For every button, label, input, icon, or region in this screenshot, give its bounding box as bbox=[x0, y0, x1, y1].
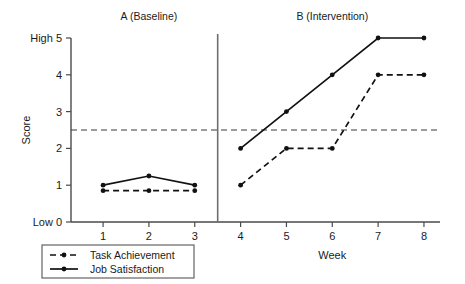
x-axis-title: Week bbox=[318, 249, 346, 261]
data-point-marker bbox=[238, 146, 243, 151]
data-point-marker bbox=[192, 183, 197, 188]
legend-marker bbox=[62, 267, 67, 272]
data-point-marker bbox=[147, 188, 152, 193]
data-point-marker bbox=[101, 188, 106, 193]
phase-label-group: A (Baseline)B (Intervention) bbox=[121, 10, 369, 22]
data-point-marker bbox=[330, 146, 335, 151]
chart-container: A (Baseline)B (Intervention) Low 01234Hi… bbox=[0, 0, 465, 284]
phase-label: B (Intervention) bbox=[296, 10, 368, 22]
data-point-marker bbox=[284, 146, 289, 151]
phase-label: A (Baseline) bbox=[121, 10, 178, 22]
y-tick-label: 1 bbox=[56, 179, 62, 191]
data-point-marker bbox=[422, 36, 427, 41]
y-axis-title: Score bbox=[20, 116, 32, 145]
y-tick-label: 4 bbox=[56, 69, 62, 81]
legend-label-2: Job Satisfaction bbox=[90, 263, 164, 275]
legend: Task AchievementJob Satisfaction bbox=[42, 245, 194, 278]
y-tick-group: Low 01234High 5 bbox=[30, 32, 71, 228]
x-tick-label: 4 bbox=[238, 230, 244, 242]
y-tick-label: 3 bbox=[56, 106, 62, 118]
data-point-marker bbox=[376, 36, 381, 41]
data-point-marker bbox=[101, 183, 106, 188]
single-case-design-line-chart: A (Baseline)B (Intervention) Low 01234Hi… bbox=[0, 0, 465, 284]
data-point-marker bbox=[238, 183, 243, 188]
data-point-marker bbox=[376, 72, 381, 77]
data-point-marker bbox=[147, 174, 152, 179]
x-tick-label: 8 bbox=[421, 230, 427, 242]
y-tick-label: High 5 bbox=[30, 32, 62, 44]
legend-label-1: Task Achievement bbox=[90, 249, 175, 261]
y-tick-label: 2 bbox=[56, 142, 62, 154]
data-point-marker bbox=[284, 109, 289, 114]
legend-marker bbox=[62, 253, 67, 258]
data-point-marker bbox=[330, 72, 335, 77]
x-tick-label: 3 bbox=[192, 230, 198, 242]
data-series-group bbox=[101, 36, 427, 194]
x-tick-label: 5 bbox=[283, 230, 289, 242]
y-tick-label: Low 0 bbox=[33, 216, 62, 228]
x-tick-label: 6 bbox=[329, 230, 335, 242]
data-point-marker bbox=[422, 72, 427, 77]
x-tick-group: 12345678 bbox=[100, 222, 427, 242]
data-point-marker bbox=[192, 188, 197, 193]
series-line-2 bbox=[241, 38, 424, 148]
x-tick-label: 1 bbox=[100, 230, 106, 242]
x-tick-label: 7 bbox=[375, 230, 381, 242]
x-tick-label: 2 bbox=[146, 230, 152, 242]
